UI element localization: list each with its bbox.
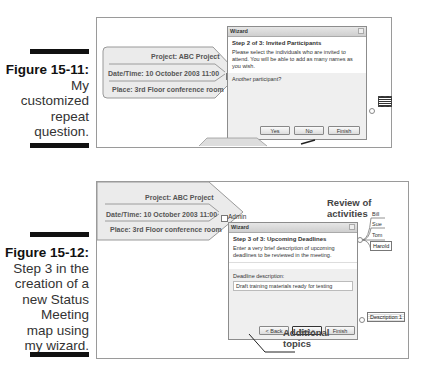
caption-rule-bottom <box>30 143 89 148</box>
topic-place: Place: 3rd Floor conference room <box>110 226 222 233</box>
topic-datetime: Date/Time: 10 October 2003 11:00 <box>106 211 217 218</box>
person-node[interactable]: Tom <box>372 232 382 238</box>
wizard-titlebar: Wizard <box>228 27 366 37</box>
wizard-header: Step 2 of 3: Invited Participants Please… <box>228 37 366 74</box>
close-icon[interactable] <box>358 28 364 34</box>
topic-place: Place: 3rd Floor conference room <box>112 86 224 93</box>
finish-button[interactable]: Finish <box>328 126 360 135</box>
wizard-dialog: Wizard Step 3 of 3: Upcoming Deadlines E… <box>228 222 358 340</box>
topic-project: Project: ABC Project <box>145 194 214 201</box>
admin-node[interactable]: Admin <box>228 213 246 220</box>
node-connector <box>359 317 365 323</box>
caption-line: repeat <box>0 109 89 125</box>
topic-connector <box>221 215 228 222</box>
figure-caption-15-12: Figure 15-12: Step 3 in the creation of … <box>0 245 89 354</box>
screenshot-frame-15-12: Project: ABC Project Date/Time: 10 Octob… <box>96 181 409 359</box>
caption-line: question. <box>0 124 89 140</box>
figure-caption-15-11: Figure 15-11: My customized repeat quest… <box>0 62 89 140</box>
person-node-selected[interactable]: Harold <box>370 241 392 251</box>
caption-rule-top <box>30 232 89 237</box>
deadline-field-label: Deadline description: <box>233 273 284 279</box>
close-icon[interactable] <box>349 224 355 230</box>
figure-label: Figure 15-11: <box>0 62 89 78</box>
figure-label: Figure 15-12: <box>0 245 89 261</box>
person-node[interactable]: Sue <box>372 221 382 227</box>
node-connector <box>369 108 375 114</box>
caption-line: Meeting <box>0 307 89 323</box>
caption-rule-top <box>30 49 89 54</box>
topic-project: Project: ABC Project <box>151 53 220 60</box>
caption-line: creation of a <box>0 276 89 292</box>
person-node[interactable]: Bill <box>372 211 379 217</box>
screenshot-frame-15-11: Project: ABC Project Date/Time: 10 Octob… <box>96 17 392 148</box>
topic-datetime: Date/Time: 10 October 2003 11:00 <box>108 70 219 77</box>
caption-line: new Status <box>0 292 89 308</box>
caption-line: customized <box>0 93 89 109</box>
wizard-description: Enter a very brief description of upcomi… <box>233 245 353 259</box>
caption-line: My <box>0 78 89 94</box>
deadline-input-value: Draft training materials ready for testi… <box>236 283 332 289</box>
description-node[interactable]: Description 1 <box>367 312 405 322</box>
wizard-step-title: Step 2 of 3: Invited Participants <box>232 40 362 46</box>
wizard-step-title: Step 3 of 3: Upcoming Deadlines <box>233 236 353 242</box>
wizard-prompt: Another participant? <box>232 76 281 82</box>
wizard-titlebar: Wizard <box>229 223 357 233</box>
branch-lines <box>197 134 327 148</box>
wizard-title: Wizard <box>230 28 248 34</box>
wizard-title: Wizard <box>231 224 249 230</box>
caption-line: map using <box>0 323 89 339</box>
deadline-input[interactable]: Draft training materials ready for testi… <box>233 281 353 291</box>
wizard-dialog: Wizard Step 2 of 3: Invited Participants… <box>227 26 367 140</box>
wizard-header: Step 3 of 3: Upcoming Deadlines Enter a … <box>229 233 357 263</box>
wizard-body: Another participant? Yes No Finish <box>228 73 366 139</box>
caption-rule-bottom <box>30 352 89 357</box>
additional-topics-node[interactable]: Additional topics <box>283 327 333 349</box>
caption-line: Step 3 in the <box>0 261 89 277</box>
side-node[interactable] <box>378 96 392 107</box>
wizard-description: Please select the individuals who are in… <box>232 49 362 70</box>
additional-topics-label: Additional topics <box>283 327 329 349</box>
